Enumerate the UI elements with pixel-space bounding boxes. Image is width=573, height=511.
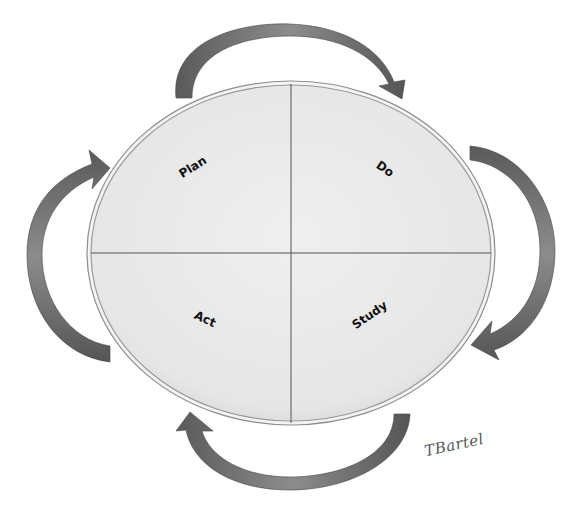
pdsa-diagram: Plan Do Study Act TBartel [0, 0, 573, 511]
cycle-ellipse [87, 81, 495, 425]
